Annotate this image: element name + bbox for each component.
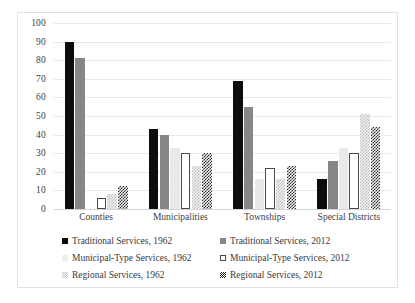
legend-item[interactable]: Regional Services, 2012	[220, 266, 372, 283]
gridline	[54, 209, 391, 210]
bar	[170, 148, 180, 209]
bar	[360, 114, 370, 209]
legend-swatch-icon	[62, 238, 68, 244]
bar	[244, 107, 254, 209]
bar	[160, 135, 170, 209]
bar	[107, 194, 117, 209]
bar-groups	[54, 23, 391, 209]
chart-container: 1009080706050403020100 CountiesMunicipal…	[17, 12, 398, 288]
bar	[202, 153, 212, 209]
legend-swatch-icon	[62, 272, 68, 278]
y-axis-tick-label: 10	[36, 185, 46, 195]
legend-swatch-icon	[62, 255, 68, 261]
y-axis-tick-label: 70	[36, 74, 46, 84]
y-axis-tick-label: 80	[36, 55, 46, 65]
x-axis-tick-label: Special Districts	[307, 212, 391, 222]
x-axis-tick-label: Townships	[223, 212, 307, 222]
bar	[371, 127, 381, 209]
bar	[75, 58, 85, 209]
legend-label: Traditional Services, 2012	[230, 236, 330, 246]
x-axis-tick-label: Municipalities	[138, 212, 222, 222]
legend-label: Traditional Services, 1962	[72, 236, 172, 246]
legend-label: Regional Services, 2012	[230, 270, 323, 280]
bar	[265, 168, 275, 209]
y-axis-tick-label: 90	[36, 37, 46, 47]
bar	[149, 129, 159, 209]
y-axis-tick-label: 30	[36, 148, 46, 158]
legend-item[interactable]: Municipal-Type Services, 2012	[220, 249, 372, 266]
x-axis: CountiesMunicipalitiesTownshipsSpecial D…	[54, 212, 391, 222]
y-axis-tick-label: 40	[36, 130, 46, 140]
bar	[181, 153, 191, 209]
bar	[97, 198, 107, 209]
bar-group	[138, 23, 222, 209]
bar-group	[54, 23, 138, 209]
bar	[287, 166, 297, 209]
legend-item[interactable]: Regional Services, 1962	[62, 266, 214, 283]
bar	[328, 161, 338, 209]
y-axis-tick-label: 60	[36, 92, 46, 102]
bar-group	[223, 23, 307, 209]
bar-group	[307, 23, 391, 209]
bar	[118, 186, 128, 209]
bar	[192, 166, 202, 209]
legend-item[interactable]: Traditional Services, 1962	[62, 232, 214, 249]
legend-label: Municipal-Type Services, 1962	[72, 253, 191, 263]
legend-swatch-icon	[220, 255, 226, 261]
bar	[349, 153, 359, 209]
x-axis-tick-label: Counties	[54, 212, 138, 222]
y-axis-tick-label: 50	[36, 111, 46, 121]
bar	[65, 42, 75, 209]
chart-legend: Traditional Services, 1962Traditional Se…	[62, 232, 372, 283]
legend-item[interactable]: Traditional Services, 2012	[220, 232, 372, 249]
legend-label: Regional Services, 1962	[72, 270, 165, 280]
bar	[339, 148, 349, 209]
y-axis-tick-label: 100	[31, 18, 46, 28]
plot-area	[54, 23, 391, 209]
legend-swatch-icon	[220, 272, 226, 278]
y-axis: 1009080706050403020100	[18, 23, 50, 209]
bar	[233, 81, 243, 209]
legend-swatch-icon	[220, 238, 226, 244]
legend-item[interactable]: Municipal-Type Services, 1962	[62, 249, 214, 266]
y-axis-tick-label: 20	[36, 167, 46, 177]
bar	[276, 179, 286, 209]
legend-label: Municipal-Type Services, 2012	[230, 253, 349, 263]
bar	[255, 179, 265, 209]
bar	[317, 179, 327, 209]
y-axis-tick-label: 0	[41, 204, 46, 214]
